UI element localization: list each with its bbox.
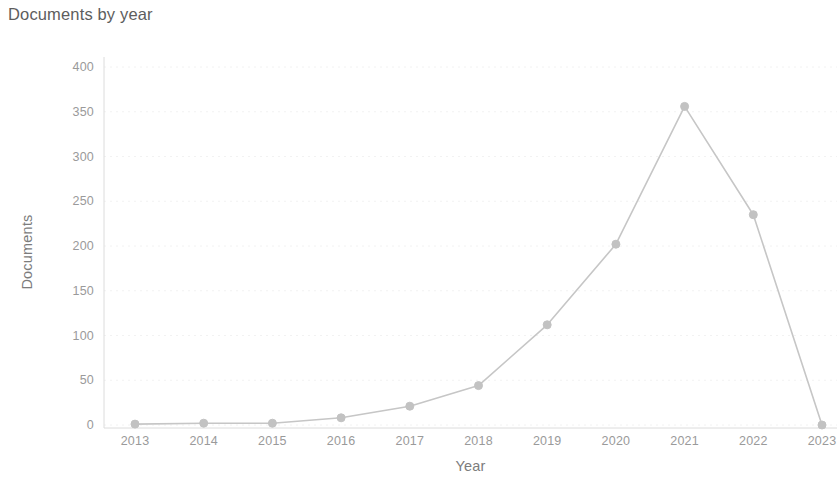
- x-axis-tick-label: 2023: [808, 434, 837, 448]
- x-axis-title: Year: [104, 458, 837, 474]
- x-axis-tick-label: 2021: [670, 434, 699, 448]
- axis-lines: [104, 57, 837, 428]
- x-axis-tick-label: 2015: [258, 434, 287, 448]
- data-point-marker[interactable]: [681, 102, 689, 110]
- data-point-marker[interactable]: [818, 421, 826, 429]
- x-axis-tick-label: 2014: [189, 434, 218, 448]
- chart-plot-area: [0, 0, 837, 488]
- data-point-marker[interactable]: [268, 419, 276, 427]
- data-point-marker[interactable]: [475, 382, 483, 390]
- x-axis-tick-label: 2020: [602, 434, 631, 448]
- documents-by-year-chart: Documents by year 0501001502002503003504…: [0, 0, 837, 488]
- y-axis-tick-label: 50: [54, 373, 94, 387]
- y-axis-tick-label: 100: [54, 329, 94, 343]
- y-axis-tick-label: 200: [54, 239, 94, 253]
- x-axis-tick-label: 2016: [327, 434, 356, 448]
- y-axis-tick-label: 250: [54, 194, 94, 208]
- y-axis-tick-label: 150: [54, 284, 94, 298]
- x-axis-tick-label: 2018: [464, 434, 493, 448]
- y-axis-tick-label: 350: [54, 105, 94, 119]
- y-axis-tick-label: 300: [54, 150, 94, 164]
- data-point-marker[interactable]: [337, 414, 345, 422]
- gridlines: [104, 67, 837, 425]
- y-axis-tick-label: 0: [54, 418, 94, 432]
- series-markers: [131, 102, 826, 429]
- x-axis-tick-label: 2022: [739, 434, 768, 448]
- data-point-marker[interactable]: [543, 321, 551, 329]
- data-point-marker[interactable]: [131, 420, 139, 428]
- data-point-marker[interactable]: [200, 419, 208, 427]
- y-axis-title: Documents: [19, 192, 35, 312]
- series-line-documents: [135, 106, 822, 425]
- data-point-marker[interactable]: [406, 402, 414, 410]
- x-axis-tick-label: 2019: [533, 434, 562, 448]
- data-point-marker[interactable]: [749, 211, 757, 219]
- y-axis-tick-label: 400: [54, 60, 94, 74]
- x-axis-tick-label: 2013: [121, 434, 150, 448]
- data-point-marker[interactable]: [612, 240, 620, 248]
- x-axis-tick-label: 2017: [395, 434, 424, 448]
